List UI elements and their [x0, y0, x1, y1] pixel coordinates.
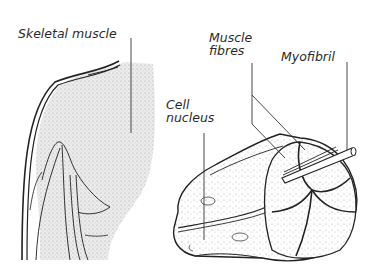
- label-cell-nucleus-line2: nucleus: [166, 111, 214, 124]
- skeletal-muscle-illustration: [22, 61, 155, 260]
- label-cell-nucleus: Cell nucleus: [166, 98, 214, 124]
- label-muscle-fibres: Muscle fibres: [209, 31, 252, 57]
- muscle-bundle-illustration: [174, 134, 357, 261]
- label-myofibril: Myofibril: [281, 50, 335, 63]
- label-skeletal-muscle: Skeletal muscle: [18, 27, 117, 40]
- label-muscle-fibres-line2: fibres: [209, 44, 252, 57]
